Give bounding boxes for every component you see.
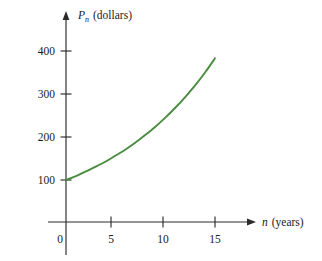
compound-interest-graph: 400 300 200 100 0 5 10 15 Pn(dollars)	[0, 0, 322, 261]
exponential-growth-curve	[66, 58, 215, 180]
x-axis-title-variable: n	[262, 216, 268, 228]
y-tick-label-400: 400	[38, 45, 56, 57]
y-axis-arrow-icon	[63, 11, 70, 20]
x-axis-arrow-icon	[247, 219, 256, 226]
data-series-group	[66, 58, 215, 180]
x-tick-label-0: 0	[57, 233, 63, 245]
x-axis-title-unit: (years)	[272, 216, 304, 229]
x-tick-labels-group: 0 5 10 15	[57, 233, 221, 245]
axis-titles-group: Pn(dollars) n(years)	[77, 9, 304, 229]
figure-container: 400 300 200 100 0 5 10 15 Pn(dollars)	[0, 0, 322, 261]
axes-group	[48, 11, 256, 255]
y-tick-label-300: 300	[38, 88, 56, 100]
x-tick-label-5: 5	[108, 233, 114, 245]
y-axis-title-unit: (dollars)	[93, 9, 132, 22]
x-tick-label-10: 10	[157, 233, 169, 245]
y-tick-label-100: 100	[38, 174, 56, 186]
y-tick-label-200: 200	[38, 131, 56, 143]
y-tick-labels-group: 400 300 200 100	[38, 45, 56, 186]
x-axis-title: n(years)	[262, 216, 304, 229]
y-axis-title-variable: P	[77, 9, 85, 21]
x-tick-label-15: 15	[209, 233, 221, 245]
y-axis-title-subscript: n	[85, 15, 89, 24]
y-axis-title: Pn(dollars)	[77, 9, 132, 24]
